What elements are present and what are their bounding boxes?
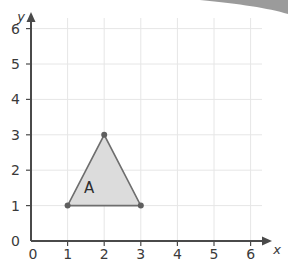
x-tick-label: 0 (29, 246, 38, 262)
y-axis-label: y (16, 9, 25, 24)
y-tick-label: 5 (11, 56, 20, 72)
tick-labels: 01234560123456xy (11, 9, 281, 262)
shape-label-a: A (84, 179, 95, 197)
x-tick-label: 2 (100, 246, 109, 262)
x-tick-label: 1 (63, 246, 72, 262)
x-tick-label: 4 (173, 246, 182, 262)
x-tick-label: 5 (210, 246, 219, 262)
vertex-point (65, 203, 71, 209)
y-tick-label: 2 (11, 162, 20, 178)
y-axis-arrow-icon (27, 12, 36, 22)
corner-shadow (200, 0, 288, 14)
y-tick-label: 4 (11, 91, 20, 107)
y-tick-label: 0 (11, 233, 20, 249)
vertex-point (138, 203, 144, 209)
coordinate-grid-chart: A 01234560123456xy (0, 0, 288, 277)
x-axis-arrow-icon (262, 237, 272, 246)
y-tick-label: 1 (11, 198, 20, 214)
vertex-point (101, 132, 107, 138)
x-axis-label: x (272, 242, 281, 257)
axes (26, 12, 272, 246)
x-tick-label: 3 (136, 246, 145, 262)
y-tick-label: 3 (11, 127, 20, 143)
x-tick-label: 6 (246, 246, 255, 262)
